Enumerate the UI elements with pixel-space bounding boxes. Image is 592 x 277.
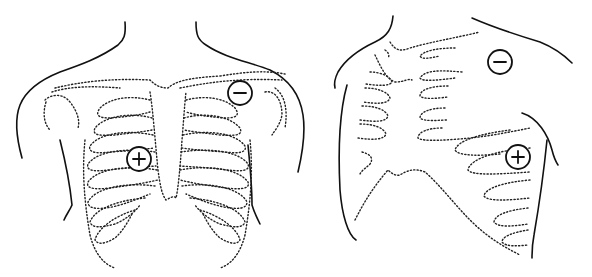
- left-ribs: [84, 98, 158, 268]
- left-rib-margin-dots: [84, 140, 115, 268]
- right-scapula-dots: [265, 88, 286, 135]
- center-ribs: [418, 48, 530, 140]
- left-arm-inner-outline: [60, 140, 72, 220]
- positive-electrode-anterior: [127, 147, 151, 171]
- back-outline: [532, 140, 547, 258]
- positive-electrode-lateral: [506, 145, 530, 169]
- clavicle-dots-lateral: [390, 32, 480, 50]
- neck-shoulder-outline: [335, 16, 393, 88]
- chest-front-outline: [339, 85, 356, 240]
- right-arm-inner-outline: [248, 145, 260, 224]
- sternum-dots: [150, 92, 186, 200]
- right-ribs: [180, 98, 251, 268]
- front-rib-ends: [358, 72, 392, 174]
- electrode-placement-diagram: [0, 0, 592, 277]
- negative-electrode-lateral: [488, 50, 512, 74]
- left-scapula-dots: [44, 95, 79, 130]
- back-shoulder-outline: [472, 18, 572, 63]
- negative-electrode-anterior: [228, 81, 252, 105]
- lateral-torso-view: [335, 16, 572, 258]
- costal-margin-dots: [355, 170, 520, 255]
- anterior-torso-view: [17, 22, 304, 268]
- left-shoulder-outline: [17, 22, 126, 158]
